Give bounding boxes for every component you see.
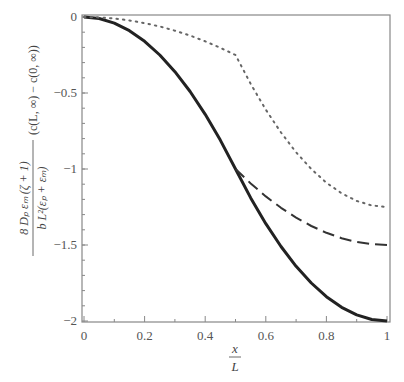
y-tick-label: −1: [63, 161, 77, 176]
y-axis-ticks: 0−0.5−1−1.5−2: [53, 9, 88, 328]
y-label-denominator: b L²(εₚ + εₘ): [35, 167, 49, 230]
series-dotted: [84, 17, 387, 207]
x-axis-label: x L: [229, 341, 241, 374]
x-tick-label: 0.2: [136, 328, 152, 343]
y-tick-label: −1.5: [53, 237, 77, 252]
y-tick-label: 0: [71, 9, 78, 24]
series-dashed: [236, 169, 388, 245]
y-axis-label: 8 Dₚ εₘ (ζ + 1) b L²(εₚ + εₘ) (c(L, ∞) −…: [17, 45, 49, 256]
svg-text:x: x: [231, 341, 238, 356]
series-layer: [84, 17, 387, 321]
y-label-suffix: (c(L, ∞) − c(0, ∞)): [26, 45, 40, 135]
x-tick-label: 1: [384, 328, 391, 343]
x-axis-ticks: 00.20.40.60.81: [81, 316, 391, 343]
chart: 00.20.40.60.81 0−0.5−1−1.5−2 x L 8 Dₚ εₘ…: [0, 0, 404, 382]
x-tick-label: 0: [81, 328, 88, 343]
y-tick-label: −0.5: [53, 85, 77, 100]
x-tick-label: 0.4: [197, 328, 214, 343]
x-tick-label: 0.6: [258, 328, 275, 343]
x-tick-label: 0.8: [318, 328, 334, 343]
y-label-numerator: 8 Dₚ εₘ (ζ + 1): [17, 161, 31, 234]
svg-text:L: L: [230, 359, 238, 374]
y-tick-label: −2: [63, 313, 77, 328]
